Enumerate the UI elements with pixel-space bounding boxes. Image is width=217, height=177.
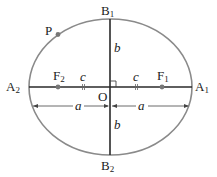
label-a-left: a — [75, 98, 82, 113]
label-b2: B2 — [101, 158, 114, 174]
focus-point-f1 — [160, 85, 165, 90]
label-b1: B1 — [101, 3, 114, 19]
label-p: P — [45, 23, 52, 38]
label-a2: A2 — [6, 79, 20, 95]
focus-point-f2 — [56, 85, 61, 90]
label-c-right: c — [133, 69, 139, 84]
dimension-a-right — [112, 104, 189, 108]
label-f2: F2 — [53, 68, 65, 84]
label-f1: F1 — [157, 68, 169, 84]
label-b-bottom: b — [114, 117, 121, 132]
dimension-a-left — [33, 104, 109, 108]
label-c-left: c — [80, 69, 86, 84]
point-p — [56, 32, 61, 37]
label-b-top: b — [114, 40, 121, 55]
right-angle-marker — [110, 81, 116, 87]
label-a1: A1 — [195, 79, 209, 95]
label-a-right: a — [138, 98, 145, 113]
ellipse-diagram: B1 B2 A2 A1 F2 F1 O P b b c c a a — [0, 0, 217, 177]
label-o: O — [98, 89, 107, 104]
